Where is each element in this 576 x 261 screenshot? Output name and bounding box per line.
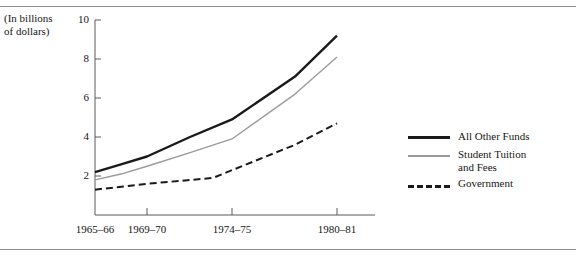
legend-label: Student Tuition and Fees [458,148,574,174]
legend-swatch-dashed-icon [408,185,450,188]
x-tick-label: 1969–70 [117,224,177,235]
y-tick-marks [95,20,101,176]
y-tick-label: 4 [69,131,89,142]
x-tick-marks [147,208,337,215]
x-tick-label: 1974–75 [202,224,262,235]
legend-label: All Other Funds [458,130,574,143]
y-tick-label: 8 [69,53,89,64]
series-line-government [95,123,337,189]
chart-figure: (In billions of dollars) 246810 1965–661… [0,0,576,261]
y-tick-label: 10 [69,14,89,25]
legend-swatch-solid-thick-icon [408,136,450,139]
series-line-all-other-funds [95,36,337,173]
legend-item-student-tuition-and-fees: Student Tuition and Fees [408,148,574,174]
series-lines [95,36,337,190]
y-tick-label: 2 [69,170,89,181]
legend-swatch-solid-thin-icon [408,155,450,157]
legend-item-all-other-funds: All Other Funds [408,130,574,145]
x-tick-label: 1980–81 [307,224,367,235]
y-tick-label: 6 [69,92,89,103]
chart-legend: All Other Funds Student Tuition and Fees… [408,130,574,195]
legend-label: Government [458,177,574,190]
x-tick-label: 1965–66 [65,224,125,235]
legend-item-government: Government [408,177,574,192]
